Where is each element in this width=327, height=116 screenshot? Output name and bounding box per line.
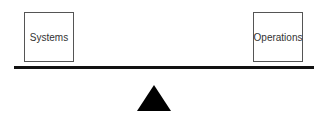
operations-label: Operations — [254, 32, 303, 43]
operations-box: Operations — [253, 12, 303, 62]
systems-label: Systems — [30, 32, 68, 43]
fulcrum-triangle-icon — [136, 84, 172, 112]
systems-box: Systems — [24, 12, 74, 62]
balance-beam — [14, 66, 314, 69]
